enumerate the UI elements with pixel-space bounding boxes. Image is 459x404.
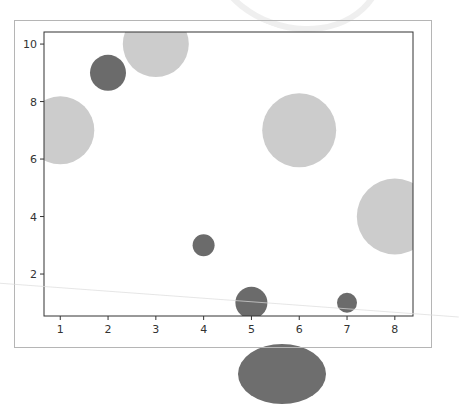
x-tick-label: 6 bbox=[296, 323, 303, 336]
y-tick-label: 10 bbox=[23, 38, 37, 51]
x-tick-label: 8 bbox=[391, 323, 398, 336]
x-axis: 12345678 bbox=[57, 316, 399, 336]
bubble-point bbox=[262, 93, 336, 167]
x-tick-label: 4 bbox=[200, 323, 207, 336]
y-axis: 246810 bbox=[23, 38, 44, 281]
x-tick-label: 1 bbox=[57, 323, 64, 336]
bubble-point bbox=[123, 11, 189, 77]
y-tick-label: 4 bbox=[30, 211, 37, 224]
bubble-point bbox=[357, 179, 433, 255]
x-tick-label: 5 bbox=[248, 323, 255, 336]
y-tick-label: 2 bbox=[30, 268, 37, 281]
bubble-point bbox=[193, 234, 215, 256]
x-tick-label: 2 bbox=[105, 323, 112, 336]
y-tick-label: 6 bbox=[30, 153, 37, 166]
x-tick-label: 3 bbox=[152, 323, 159, 336]
x-tick-label: 7 bbox=[344, 323, 351, 336]
y-tick-label: 8 bbox=[30, 96, 37, 109]
bubble-point bbox=[90, 55, 126, 91]
